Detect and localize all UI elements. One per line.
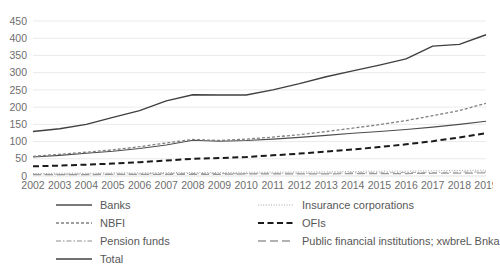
- legend-item[interactable]: Banks: [56, 196, 170, 213]
- x-axis-tick-label: 2007: [155, 179, 179, 191]
- y-axis-tick-label: 300: [9, 66, 27, 78]
- x-axis-tick-label: 2005: [101, 179, 125, 191]
- legend-item-label: NBFI: [100, 217, 125, 229]
- x-axis-tick-label: 2014: [341, 179, 365, 191]
- solid-thin-swatch: [56, 199, 92, 211]
- dotted-medium-swatch: [56, 217, 92, 229]
- chart-plot-area: 050100150200250300350400450 200220032004…: [0, 0, 493, 196]
- legend-item[interactable]: OFIs: [258, 214, 500, 231]
- x-axis-tick-label: 2012: [288, 179, 312, 191]
- x-axis-tick-label: 2009: [208, 179, 232, 191]
- legend-item-label: OFIs: [302, 217, 326, 229]
- gridlines: [33, 21, 486, 176]
- y-axis-tick-label: 200: [9, 101, 27, 113]
- dash-dot-light-swatch: [56, 235, 92, 247]
- x-axis-tick-label: 2018: [448, 179, 472, 191]
- legend-item[interactable]: Pension funds: [56, 232, 170, 249]
- x-axis-tick-label: 2004: [75, 179, 99, 191]
- chart-legend: BanksNBFIPension fundsTotal Insurance co…: [0, 196, 493, 268]
- y-axis-tick-label: 50: [15, 152, 27, 164]
- x-axis-tick-label: 2010: [234, 179, 258, 191]
- y-axis-tick-label: 450: [9, 15, 27, 27]
- x-axis-tick-label: 2015: [368, 179, 392, 191]
- x-axis-tick-label: 2003: [48, 179, 72, 191]
- x-axis-tick-label: 2008: [181, 179, 205, 191]
- y-axis-tick-labels: 050100150200250300350400450: [9, 15, 27, 182]
- legend-item[interactable]: NBFI: [56, 214, 170, 231]
- y-axis-tick-label: 150: [9, 118, 27, 130]
- y-axis-tick-label: 100: [9, 135, 27, 147]
- legend-item-label: Insurance corporations: [302, 199, 414, 211]
- x-axis-tick-label: 2019: [474, 179, 493, 191]
- legend-item-label: Public financial institutions; xwbreL Bn…: [302, 235, 500, 247]
- legend-item-label: Total: [100, 253, 123, 265]
- y-axis-tick-label: 250: [9, 84, 27, 96]
- y-axis-tick-label: 350: [9, 49, 27, 61]
- legend-column-right: Insurance corporationsOFIsPublic financi…: [258, 196, 500, 250]
- x-axis-tick-label: 2006: [128, 179, 152, 191]
- series-line: [33, 121, 486, 157]
- fine-dotted-swatch: [258, 199, 294, 211]
- y-axis-tick-label: 400: [9, 32, 27, 44]
- series-line: [33, 103, 486, 156]
- x-axis-tick-label: 2017: [421, 179, 445, 191]
- legend-item-label: Banks: [100, 199, 131, 211]
- bold-dashed-swatch: [258, 217, 294, 229]
- series-line: [33, 35, 486, 132]
- x-axis-tick-labels: 2002200320042005200620072008200920102011…: [21, 179, 493, 191]
- x-axis-tick-label: 2011: [262, 179, 285, 191]
- x-axis-tick-label: 2002: [21, 179, 45, 191]
- legend-column-left: BanksNBFIPension fundsTotal: [56, 196, 170, 268]
- legend-item[interactable]: Public financial institutions; xwbreL Bn…: [258, 232, 500, 249]
- x-axis-tick-label: 2016: [394, 179, 418, 191]
- long-dash-swatch: [258, 235, 294, 247]
- legend-item[interactable]: Total: [56, 250, 170, 267]
- legend-item-label: Pension funds: [100, 235, 170, 247]
- solid-thick-swatch: [56, 253, 92, 265]
- x-axis-tick-label: 2013: [314, 179, 338, 191]
- legend-item[interactable]: Insurance corporations: [258, 196, 500, 213]
